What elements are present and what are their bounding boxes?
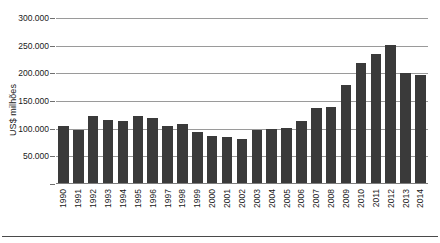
bar-slot [309, 18, 324, 183]
bar-slot [101, 18, 116, 183]
y-axis-title: US$ milhões [8, 0, 18, 62]
x-tick-label: 2010 [356, 189, 366, 208]
bar-slot [249, 18, 264, 183]
x-label-slot: 1990 [56, 186, 71, 230]
bar-slot [86, 18, 101, 183]
x-tick-label: 2014 [415, 189, 425, 208]
x-tick-label: 1995 [133, 189, 143, 208]
y-axis-title-label: US$ milhões [8, 62, 18, 158]
bar-slot [383, 18, 398, 183]
bar [311, 108, 322, 183]
bar [73, 130, 84, 183]
bar [400, 73, 411, 183]
y-tick-label: 150.000 [18, 96, 49, 106]
bar-slot [130, 18, 145, 183]
x-tick-label: 1997 [163, 189, 173, 208]
bar-slot [220, 18, 235, 183]
x-tick-label: 1999 [192, 189, 202, 208]
bar-slot [324, 18, 339, 183]
bar [326, 107, 337, 183]
bar [88, 116, 99, 184]
y-tick-mark [50, 129, 55, 130]
bar-slot [71, 18, 86, 183]
x-label-slot: 2009 [339, 186, 354, 230]
x-label-slot: 1994 [116, 186, 131, 230]
bar [177, 124, 188, 183]
y-tick-label: 200.000 [18, 68, 49, 78]
bar-slot [190, 18, 205, 183]
x-label-slot: 2002 [235, 186, 250, 230]
bar [415, 75, 426, 183]
y-tick-label: 100.000 [18, 124, 49, 134]
x-label-slot: 1993 [101, 186, 116, 230]
x-axis-labels: 1990199119921993199419951996199719981999… [56, 186, 428, 230]
y-tick-mark [50, 73, 55, 74]
x-label-slot: 2012 [383, 186, 398, 230]
bar [133, 116, 144, 183]
x-tick-label: 2002 [237, 189, 247, 208]
y-tick-mark [50, 156, 55, 157]
x-label-slot: 2003 [249, 186, 264, 230]
x-tick-label: 2013 [401, 189, 411, 208]
bar-slot [116, 18, 131, 183]
bar [356, 63, 367, 183]
y-tick-mark-zero [50, 184, 55, 185]
x-tick-label: 2003 [252, 189, 262, 208]
y-tick-mark [50, 18, 55, 19]
x-tick-label: 2008 [326, 189, 336, 208]
x-tick-label: 2000 [207, 189, 217, 208]
x-label-slot: 1999 [190, 186, 205, 230]
plot-area: 300.000250.000200.000150.000100.00050.00… [56, 18, 428, 184]
bar-slot [264, 18, 279, 183]
bar-chart: US$ milhões 300.000250.000200.000150.000… [0, 0, 440, 243]
x-tick-label: 2007 [311, 189, 321, 208]
x-tick-label: 2001 [222, 189, 232, 208]
bar-slot [279, 18, 294, 183]
x-tick-label: 2011 [371, 189, 381, 207]
bar [252, 130, 263, 183]
bar [281, 128, 292, 183]
x-label-slot: 2011 [368, 186, 383, 230]
bar-slot [205, 18, 220, 183]
bar-slot [339, 18, 354, 183]
bar-slot [413, 18, 428, 183]
bar-slot [145, 18, 160, 183]
bar-slot [175, 18, 190, 183]
x-tick-label: 2009 [341, 189, 351, 208]
bar-slot [235, 18, 250, 183]
bar [296, 121, 307, 183]
x-label-slot: 1996 [145, 186, 160, 230]
bar [341, 85, 352, 183]
bar [118, 121, 129, 183]
x-label-slot: 2013 [398, 186, 413, 230]
bar [162, 126, 173, 183]
x-label-slot: 2010 [354, 186, 369, 230]
x-tick-label: 2004 [267, 189, 277, 208]
y-tick-mark [50, 46, 55, 47]
x-tick-label: 2005 [282, 189, 292, 208]
x-tick-label: 2006 [296, 189, 306, 208]
bar-slot [398, 18, 413, 183]
bar-slot [160, 18, 175, 183]
x-label-slot: 2000 [205, 186, 220, 230]
bar-slot [294, 18, 309, 183]
x-label-slot: 2007 [309, 186, 324, 230]
footer-divider [2, 236, 438, 237]
x-label-slot: 1991 [71, 186, 86, 230]
bar [371, 54, 382, 183]
y-tick-label: 50.000 [23, 151, 49, 161]
y-tick-label: 250.000 [18, 41, 49, 51]
x-label-slot: 1998 [175, 186, 190, 230]
bar-series [56, 18, 428, 183]
x-label-slot: 2006 [294, 186, 309, 230]
x-tick-label: 2012 [386, 189, 396, 208]
x-tick-label: 1996 [148, 189, 158, 208]
bar-slot [56, 18, 71, 183]
x-label-slot: 2004 [264, 186, 279, 230]
bar [207, 136, 218, 183]
x-label-slot: 2008 [324, 186, 339, 230]
x-label-slot: 1997 [160, 186, 175, 230]
x-label-slot: 2014 [413, 186, 428, 230]
bar-slot [354, 18, 369, 183]
axis-baseline [56, 183, 428, 184]
